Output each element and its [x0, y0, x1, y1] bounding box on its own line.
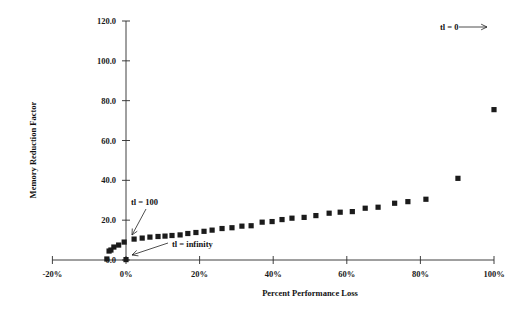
- data-point-0-36: [455, 176, 460, 181]
- data-point-0-24: [279, 217, 284, 222]
- x-axis-tick-labels: -20%0%20%40%60%80%100%: [42, 269, 504, 279]
- data-point-0-21: [249, 223, 254, 228]
- y-tick-label-3: 60.0: [101, 136, 116, 146]
- data-point-0-16: [201, 229, 206, 234]
- data-point-0-35: [423, 197, 428, 202]
- percent-performance-loss-axis: [52, 256, 494, 264]
- data-point-0-37: [491, 107, 496, 112]
- y-tick-label-1: 20.0: [101, 215, 116, 225]
- data-point-0-29: [338, 210, 343, 215]
- data-point-0-10: [155, 234, 160, 239]
- data-point-0-17: [210, 228, 215, 233]
- data-point-0-27: [313, 213, 318, 218]
- x-tick-label-6: 100%: [483, 269, 504, 279]
- data-point-0-12: [169, 233, 174, 238]
- x-tick-label-3: 40%: [265, 269, 282, 279]
- x-tick-label-4: 60%: [338, 269, 355, 279]
- data-point-markers: [104, 107, 496, 262]
- data-point-0-30: [350, 209, 355, 214]
- x-tick-label-1: 0%: [120, 269, 133, 279]
- annotation-label-tl-hundred: tl = 100: [131, 197, 158, 207]
- data-point-0-20: [239, 224, 244, 229]
- annotation-label-tl-zero: tl = 0: [440, 22, 459, 32]
- data-point-0-33: [392, 201, 397, 206]
- data-point-0-19: [229, 225, 234, 230]
- data-point-0-32: [375, 205, 380, 210]
- data-point-0-13: [178, 232, 183, 237]
- annotation-tl-hundred: tl = 100: [131, 197, 158, 235]
- chart-annotations: tl = 0tl = 100tl = infinity: [131, 22, 487, 256]
- y-tick-label-4: 80.0: [101, 96, 116, 106]
- data-point-0-25: [289, 216, 294, 221]
- data-point-0-26: [302, 215, 307, 220]
- data-point-0-23: [270, 219, 275, 224]
- memory-reduction-factor-axis: [122, 21, 130, 260]
- data-point-0-6: [123, 257, 128, 262]
- chart-container: 0.020.040.060.080.0100.0120.0 -20%0%20%4…: [0, 0, 532, 310]
- x-tick-label-5: 80%: [412, 269, 429, 279]
- data-point-0-15: [193, 230, 198, 235]
- data-point-0-3: [111, 244, 116, 249]
- y-axis-title: Memory Reduction Factor: [28, 101, 38, 198]
- data-point-0-8: [140, 235, 145, 240]
- data-point-0-4: [116, 242, 121, 247]
- annotation-arrow-tl-infinity: [132, 243, 168, 255]
- data-point-0-11: [162, 234, 167, 239]
- y-axis-tick-labels: 0.020.040.060.080.0100.0120.0: [97, 16, 116, 265]
- scatter-plot-svg: 0.020.040.060.080.0100.0120.0 -20%0%20%4…: [0, 0, 532, 310]
- x-tick-label-2: 20%: [191, 269, 208, 279]
- data-point-0-14: [185, 231, 190, 236]
- data-point-0-7: [132, 236, 137, 241]
- x-tick-label-0: -20%: [42, 269, 62, 279]
- annotation-arrow-tl-hundred: [132, 209, 146, 235]
- y-tick-label-6: 120.0: [97, 16, 116, 26]
- y-tick-label-5: 100.0: [97, 56, 116, 66]
- x-axis-title: Percent Performance Loss: [262, 288, 358, 298]
- data-point-0-5: [122, 239, 127, 244]
- data-point-0-9: [147, 235, 152, 240]
- data-point-0-34: [405, 199, 410, 204]
- data-point-0-22: [260, 220, 265, 225]
- annotation-tl-zero: tl = 0: [440, 22, 487, 32]
- data-point-0-31: [363, 206, 368, 211]
- data-point-0-18: [219, 226, 224, 231]
- annotation-tl-infinity: tl = infinity: [132, 239, 213, 256]
- data-point-0-28: [327, 211, 332, 216]
- data-point-0-0: [104, 256, 109, 261]
- annotation-label-tl-infinity: tl = infinity: [172, 239, 213, 249]
- y-tick-label-2: 40.0: [101, 175, 116, 185]
